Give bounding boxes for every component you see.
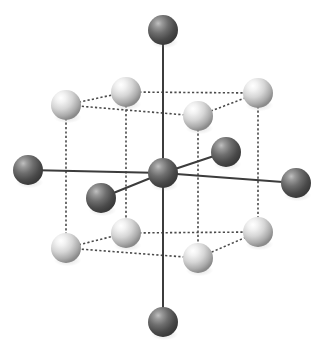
corner-top-back-left — [111, 77, 141, 110]
ligand-right — [281, 168, 311, 201]
ligand-front-left — [86, 183, 116, 216]
corner-bottom-front-left — [51, 233, 81, 266]
corner-bottom-back-right — [243, 217, 273, 250]
corner-bottom-back-left — [111, 218, 141, 251]
ligand-top — [148, 15, 178, 48]
corner-top-front-right — [183, 101, 213, 134]
crystal-lattice-figure — [0, 0, 327, 352]
lattice-diagram — [0, 0, 327, 352]
ligand-left — [13, 155, 43, 188]
corner-top-front-left — [51, 90, 81, 123]
corner-top-back-right — [243, 78, 273, 111]
ligand-back-right — [211, 137, 241, 170]
ligand-bottom — [148, 307, 178, 340]
central-atom — [148, 158, 178, 191]
corner-bottom-front-right — [183, 243, 213, 276]
